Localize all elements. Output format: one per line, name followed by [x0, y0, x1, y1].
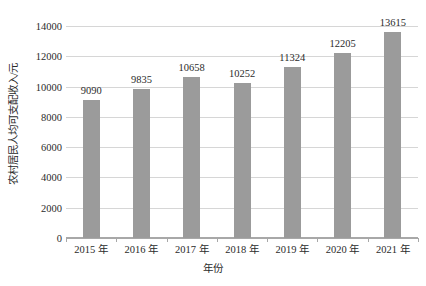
- y-axis-tick-label: 8000: [6, 111, 62, 122]
- y-axis-tick-label: 12000: [6, 51, 62, 62]
- bar-chart-figure: 农村居民人均可支配收入/元 02000400060008000100001200…: [0, 0, 426, 286]
- x-axis-tick-mark: [167, 238, 168, 242]
- bar[interactable]: [334, 53, 351, 238]
- y-axis-tick-label: 14000: [6, 21, 62, 32]
- bar[interactable]: [83, 100, 100, 238]
- bar-value-label: 9835: [111, 74, 171, 86]
- x-axis-tick-mark: [116, 238, 117, 242]
- bar-value-label: 9090: [61, 85, 121, 97]
- y-axis-tick-label: 0: [6, 233, 62, 244]
- x-axis-tick-mark: [418, 238, 419, 242]
- y-axis-tick-label: 6000: [6, 142, 62, 153]
- bar-value-label: 11324: [262, 52, 322, 64]
- bar-value-label: 10252: [212, 68, 272, 80]
- y-axis-tick-labels: 02000400060008000100001200014000: [0, 26, 62, 238]
- x-axis-tick-labels: 2015 年2016 年2017 年2018 年2019 年2020 年2021…: [66, 238, 418, 258]
- bar-value-label: 12205: [313, 38, 373, 50]
- gridline: [66, 56, 418, 57]
- y-axis-tick-label: 10000: [6, 81, 62, 92]
- plot-area: 909098351065810252113241220513615: [66, 26, 418, 238]
- bar[interactable]: [234, 83, 251, 238]
- x-axis-tick-mark: [368, 238, 369, 242]
- x-axis-title: 年份: [0, 262, 426, 275]
- bar[interactable]: [284, 67, 301, 238]
- x-axis-tick-mark: [66, 238, 67, 242]
- x-axis-tick-mark: [317, 238, 318, 242]
- x-axis-tick-label: 2021 年: [363, 243, 423, 256]
- x-axis-tick-mark: [217, 238, 218, 242]
- x-axis-tick-mark: [267, 238, 268, 242]
- bar[interactable]: [133, 89, 150, 238]
- bar[interactable]: [384, 32, 401, 238]
- bar[interactable]: [183, 77, 200, 238]
- bar-value-label: 13615: [363, 17, 423, 29]
- y-axis-tick-label: 4000: [6, 172, 62, 183]
- y-axis-tick-label: 2000: [6, 202, 62, 213]
